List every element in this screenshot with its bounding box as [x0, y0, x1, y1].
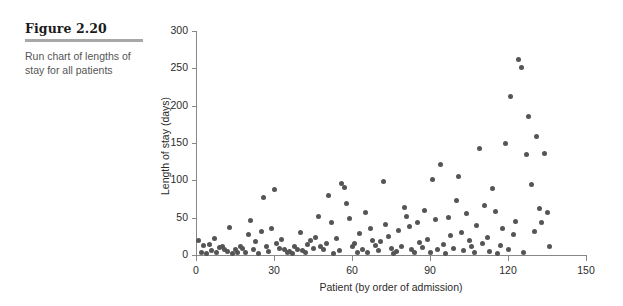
data-point [386, 234, 391, 239]
data-point [469, 244, 474, 249]
data-point [477, 146, 482, 151]
data-point [435, 247, 440, 252]
data-point [311, 246, 316, 251]
data-point [537, 206, 542, 211]
data-point [524, 152, 529, 157]
data-point [199, 250, 204, 255]
data-point [508, 94, 513, 99]
data-point [342, 185, 347, 190]
data-point [534, 134, 539, 139]
data-point [337, 248, 342, 253]
data-point [482, 203, 487, 208]
x-axis-tick [196, 256, 197, 261]
data-point [519, 65, 524, 70]
data-point [363, 210, 368, 215]
y-axis-tick [192, 106, 196, 107]
y-axis-tick-label: 300 [150, 24, 188, 36]
data-point [485, 235, 490, 240]
x-axis-title: Patient (by order of admission) [306, 281, 476, 293]
data-point [266, 249, 271, 254]
data-point [464, 211, 469, 216]
data-point [454, 198, 459, 203]
data-point [500, 226, 505, 231]
x-axis-tick [430, 256, 431, 261]
data-point [433, 217, 438, 222]
data-point [204, 251, 209, 256]
x-axis-tick-label: 0 [176, 264, 216, 276]
x-axis-tick [586, 256, 587, 261]
x-axis-tick [508, 256, 509, 261]
data-point [212, 236, 217, 241]
figure-page: Figure 2.20 Run chart of lengths of stay… [0, 0, 623, 306]
data-point [394, 249, 399, 254]
data-point [334, 236, 339, 241]
data-point [532, 229, 537, 234]
y-axis-tick [192, 68, 196, 69]
data-point [376, 248, 381, 253]
x-axis-tick-label: 90 [410, 264, 450, 276]
y-axis-tick [192, 143, 196, 144]
data-point [321, 247, 326, 252]
data-point [357, 231, 362, 236]
data-point [420, 245, 425, 250]
data-point [472, 250, 477, 255]
data-point [487, 249, 492, 254]
data-point [513, 219, 518, 224]
data-point [407, 224, 412, 229]
data-point [493, 209, 498, 214]
data-point [264, 244, 269, 249]
data-point [446, 215, 451, 220]
data-point [253, 239, 258, 244]
data-point [368, 226, 373, 231]
data-point [326, 193, 331, 198]
data-point [430, 177, 435, 182]
y-axis-tick [192, 31, 196, 32]
y-axis-line [196, 31, 197, 256]
data-point [451, 246, 456, 251]
data-point [480, 241, 485, 246]
y-axis-tick [192, 180, 196, 181]
data-point [251, 247, 256, 252]
data-point [498, 243, 503, 248]
data-point [303, 250, 308, 255]
data-point [225, 249, 230, 254]
data-point [461, 248, 466, 253]
data-point [269, 226, 274, 231]
data-point [352, 241, 357, 246]
data-point [256, 251, 261, 256]
data-point [344, 201, 349, 206]
y-axis-tick [192, 218, 196, 219]
data-point [279, 237, 284, 242]
data-point [448, 233, 453, 238]
data-point [201, 243, 206, 248]
data-point [399, 244, 404, 249]
data-point [459, 230, 464, 235]
data-point [526, 114, 531, 119]
data-point [246, 232, 251, 237]
data-point [298, 230, 303, 235]
data-point [545, 210, 550, 215]
data-point [196, 238, 201, 243]
data-point [272, 187, 277, 192]
data-point [383, 222, 388, 227]
data-point [404, 214, 409, 219]
x-axis-tick-label: 30 [254, 264, 294, 276]
data-point [259, 229, 264, 234]
data-point [402, 205, 407, 210]
data-point [456, 174, 461, 179]
data-point [227, 225, 232, 230]
x-axis-tick [274, 256, 275, 261]
scatter-chart: 0501001502002503000306090120150 Length o… [0, 0, 623, 306]
x-axis-tick [352, 256, 353, 261]
x-axis-tick-label: 120 [488, 264, 528, 276]
data-point [542, 151, 547, 156]
data-point [529, 182, 534, 187]
data-point [243, 250, 248, 255]
x-axis-tick-label: 150 [566, 264, 606, 276]
y-axis-tick-label: 0 [150, 248, 188, 260]
data-point [539, 220, 544, 225]
data-point [516, 57, 521, 62]
data-point [428, 250, 433, 255]
data-point [503, 141, 508, 146]
data-point [415, 220, 420, 225]
